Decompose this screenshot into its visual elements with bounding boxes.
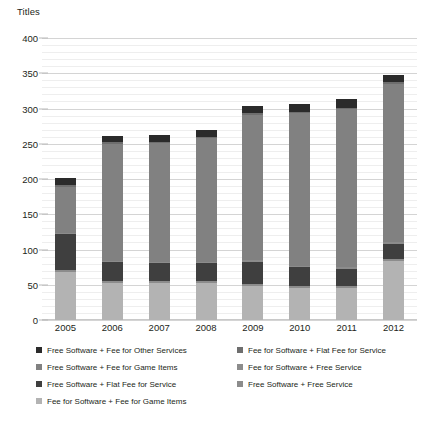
bar-segment[interactable] — [383, 244, 404, 259]
bar-segment[interactable] — [242, 262, 263, 285]
legend-swatch-icon — [237, 381, 243, 387]
legend-item[interactable]: Fee for Software + Free Service — [237, 363, 362, 373]
y-axis-tick-mark — [39, 38, 48, 39]
bar-segment[interactable] — [336, 269, 357, 287]
legend-swatch-icon — [36, 398, 42, 404]
legend-label: Fee for Software + Flat Fee for Service — [248, 346, 386, 356]
bar-segment[interactable] — [55, 272, 76, 320]
legend-swatch-icon — [237, 364, 243, 370]
x-axis-tick-label: 2008 — [183, 322, 230, 333]
bar-segment[interactable] — [289, 288, 310, 320]
bar-stack[interactable] — [149, 135, 170, 320]
bar-segment[interactable] — [289, 104, 310, 112]
x-axis-tick-label: 2009 — [230, 322, 277, 333]
bar-stack[interactable] — [289, 104, 310, 320]
y-axis-tick-label: 50 — [0, 279, 38, 290]
legend-item[interactable]: Free Software + Fee for Other Services — [36, 346, 187, 356]
bar-segment[interactable] — [102, 144, 123, 261]
bar-segment[interactable] — [289, 113, 310, 265]
y-axis-tick-mark — [39, 73, 48, 74]
legend-item[interactable]: Free Software + Flat Fee for Service — [36, 380, 176, 390]
bar-segment[interactable] — [383, 75, 404, 83]
bar-segment[interactable] — [149, 143, 170, 261]
bar-segment[interactable] — [102, 283, 123, 320]
bar-segment[interactable] — [383, 261, 404, 320]
y-axis-tick-mark — [39, 214, 48, 215]
bar-segment[interactable] — [242, 106, 263, 114]
y-axis-tick-label: 300 — [0, 103, 38, 114]
bar-segment[interactable] — [242, 286, 263, 320]
bar-segment[interactable] — [102, 262, 123, 281]
bar-segment[interactable] — [336, 99, 357, 107]
bar-stack[interactable] — [55, 178, 76, 320]
x-axis-tick-label: 2010 — [276, 322, 323, 333]
legend-label: Fee for Software + Free Service — [248, 363, 362, 373]
bar-stack[interactable] — [336, 99, 357, 320]
legend-item[interactable]: Fee for Software + Fee for Game Items — [36, 397, 186, 407]
y-axis-tick-label: 350 — [0, 68, 38, 79]
y-axis-tick-label: 150 — [0, 209, 38, 220]
x-axis-tick-label: 2006 — [89, 322, 136, 333]
bar-stack[interactable] — [242, 106, 263, 320]
x-axis-tick-label: 2011 — [323, 322, 370, 333]
x-axis-tick-label: 2012 — [370, 322, 417, 333]
y-axis-tick-label: 100 — [0, 244, 38, 255]
legend-label: Free Software + Free Service — [248, 380, 353, 390]
bar-stack[interactable] — [102, 136, 123, 320]
bar-segment[interactable] — [149, 263, 170, 281]
legend-swatch-icon — [36, 364, 42, 370]
stacked-bar-chart: Titles 050100150200250300350400 20052006… — [0, 0, 425, 437]
legend-item[interactable]: Free Software + Free Service — [237, 380, 353, 390]
legend-label: Free Software + Flat Fee for Service — [47, 380, 176, 390]
bar-group — [42, 38, 417, 320]
y-axis-tick-mark — [39, 108, 48, 109]
bar-segment[interactable] — [196, 130, 217, 137]
y-axis-tick-mark — [39, 179, 48, 180]
legend-swatch-icon — [237, 347, 243, 353]
y-axis-tick-mark — [39, 143, 48, 144]
legend-swatch-icon — [36, 381, 42, 387]
legend-item[interactable]: Free Software + Fee for Game Items — [36, 363, 178, 373]
y-axis-tick-label: 200 — [0, 174, 38, 185]
y-axis-tick-mark — [39, 284, 48, 285]
bar-segment[interactable] — [55, 187, 76, 233]
y-axis-tick-mark — [39, 249, 48, 250]
bar-segment[interactable] — [196, 263, 217, 281]
bar-stack[interactable] — [383, 75, 404, 320]
plot-area — [42, 38, 417, 320]
y-axis-tick-mark — [39, 320, 48, 321]
legend-label: Free Software + Fee for Other Services — [47, 346, 187, 356]
bar-segment[interactable] — [55, 178, 76, 185]
y-axis-tick-label: 0 — [0, 315, 38, 326]
bar-segment[interactable] — [55, 234, 76, 270]
bar-segment[interactable] — [383, 84, 404, 243]
legend-item[interactable]: Fee for Software + Flat Fee for Service — [237, 346, 386, 356]
x-axis-tick-label: 2007 — [136, 322, 183, 333]
x-axis-tick-label: 2005 — [42, 322, 89, 333]
legend-label: Free Software + Fee for Game Items — [47, 363, 178, 373]
bar-stack[interactable] — [196, 130, 217, 320]
bar-segment[interactable] — [196, 283, 217, 320]
legend-label: Fee for Software + Fee for Game Items — [47, 397, 186, 407]
bar-segment[interactable] — [289, 267, 310, 286]
bar-segment[interactable] — [196, 138, 217, 261]
chart-legend: Free Software + Fee for Other ServicesFr… — [0, 346, 425, 434]
bar-segment[interactable] — [149, 283, 170, 320]
bar-segment[interactable] — [336, 288, 357, 320]
bar-segment[interactable] — [336, 109, 357, 267]
bar-segment[interactable] — [242, 115, 263, 260]
legend-swatch-icon — [36, 347, 42, 353]
y-axis-title: Titles — [17, 6, 40, 17]
y-axis-tick-label: 400 — [0, 33, 38, 44]
y-axis-tick-label: 250 — [0, 138, 38, 149]
gridline-major — [42, 320, 417, 321]
